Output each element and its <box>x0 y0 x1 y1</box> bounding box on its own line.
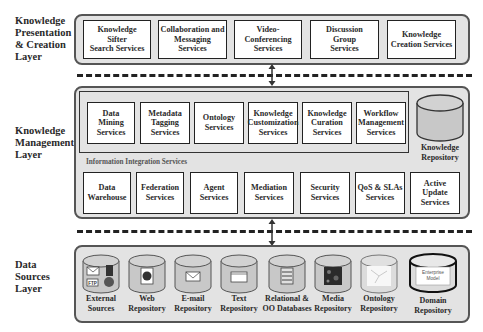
line: Group <box>326 35 363 45</box>
knowledge-sifter-search-services[interactable]: KnowledgeSifterSearch Services <box>83 20 151 59</box>
mediation-services[interactable]: MediationServices <box>244 172 294 214</box>
line: Security <box>310 183 339 193</box>
line: Repository <box>214 304 264 314</box>
agent-services[interactable]: AgentServices <box>190 172 238 214</box>
line: E-mail <box>168 294 218 304</box>
line: Web <box>122 294 172 304</box>
line: Mining <box>97 118 126 128</box>
qos-slas-services[interactable]: QoS & SLAsServices <box>355 172 405 214</box>
line: Metadata <box>148 109 182 119</box>
knowledge-curation-services[interactable]: KnowledgeCurationServices <box>302 102 352 144</box>
repo-label: External Sources <box>76 294 126 313</box>
repo-label: E-mail Repository <box>168 294 218 313</box>
federation-services[interactable]: FederationServices <box>136 172 184 214</box>
web-page-icon <box>128 254 166 294</box>
domain-repository[interactable]: Enterprise Model Domain Repository <box>408 253 458 321</box>
relational-oo-databases[interactable]: Relational & OO Databases <box>268 254 306 318</box>
text-document-icon <box>220 254 258 294</box>
line: Repository <box>402 306 464 316</box>
video-conferencing-services[interactable]: Video-ConferencingServices <box>234 20 302 59</box>
line: Workflow <box>358 109 404 119</box>
line: Knowledge <box>307 109 346 119</box>
line: Mediation <box>251 183 287 193</box>
enterprise-model-icon: Enterprise Model <box>408 253 458 293</box>
information-integration-services-label: Information Integration Services <box>86 158 187 166</box>
line: Messaging <box>161 35 225 45</box>
line: Services <box>203 123 235 133</box>
knowledge-repository-label: Knowledge Repository <box>409 143 471 162</box>
data-warehouse[interactable]: DataWarehouse <box>83 172 131 214</box>
line: Agent <box>200 183 229 193</box>
label-line: & Creation <box>15 39 71 51</box>
line: Federation <box>141 183 179 193</box>
svg-text:Model: Model <box>426 276 439 281</box>
knowledge-customization-services[interactable]: KnowledgeCustomizationServices <box>248 102 298 144</box>
line: Services <box>244 44 291 54</box>
ontology-repository[interactable]: Ontology Repository <box>360 254 398 318</box>
media-repository[interactable]: Media Repository <box>314 254 352 318</box>
line: Discussion <box>326 25 363 35</box>
label-line: Sources <box>15 271 50 283</box>
line: Services <box>148 128 182 138</box>
email-repository[interactable]: E-mail Repository <box>174 254 212 318</box>
line: Services <box>97 128 126 138</box>
workflow-management-services[interactable]: WorkflowManagementServices <box>356 102 406 144</box>
line: External <box>76 294 126 304</box>
line: Tagging <box>148 118 182 128</box>
line: Services <box>161 44 225 54</box>
line: Sifter <box>90 35 145 45</box>
active-update-services[interactable]: ActiveUpdateServices <box>410 172 460 214</box>
line: Knowledge <box>248 109 299 119</box>
svg-text:FTP: FTP <box>88 281 97 286</box>
label-line: Layer <box>15 283 50 295</box>
line: Conferencing <box>244 35 291 45</box>
line: Repository <box>168 304 218 314</box>
line: Media <box>308 294 358 304</box>
metadata-tagging-services[interactable]: MetadataTaggingServices <box>140 102 190 144</box>
repo-label: Media Repository <box>308 294 358 313</box>
repo-label: Domain Repository <box>402 296 464 315</box>
line: Active <box>421 179 450 189</box>
label-line: Data <box>15 259 50 271</box>
line: Knowledge <box>391 30 452 40</box>
line: Repository <box>122 304 172 314</box>
ontology-graph-icon <box>360 254 398 294</box>
database-table-icon <box>268 254 306 294</box>
label-line: Presentation <box>15 27 71 39</box>
line: Management <box>358 118 404 128</box>
line: Services <box>251 193 287 203</box>
line: Customization <box>248 118 299 128</box>
line: Creation Services <box>391 40 452 50</box>
knowledge-creation-services[interactable]: KnowledgeCreation Services <box>387 20 456 59</box>
line: Knowledge <box>409 143 471 153</box>
collaboration-messaging-services[interactable]: Collaboration andMessagingServices <box>158 20 227 59</box>
svg-text:Enterprise: Enterprise <box>422 270 444 275</box>
line: Data <box>88 183 127 193</box>
repo-label: Ontology Repository <box>354 294 404 313</box>
label-line: Layer <box>15 149 74 161</box>
line: Services <box>357 193 402 203</box>
bidirectional-arrow-icon <box>267 219 277 246</box>
line: Repository <box>354 304 404 314</box>
line: Text <box>214 294 264 304</box>
bidirectional-arrow-icon <box>267 64 277 86</box>
line: Update <box>421 188 450 198</box>
knowledge-repository-cylinder-icon[interactable] <box>415 94 465 142</box>
line: Ontology <box>354 294 404 304</box>
line: Services <box>358 128 404 138</box>
label-line: Layer <box>15 51 71 63</box>
text-repository[interactable]: Text Repository <box>220 254 258 318</box>
web-repository[interactable]: Web Repository <box>128 254 166 318</box>
line: Data <box>97 109 126 119</box>
data-mining-services[interactable]: DataMiningServices <box>87 102 135 144</box>
ontology-services[interactable]: OntologyServices <box>194 102 244 144</box>
discussion-group-services[interactable]: DiscussionGroupServices <box>310 20 379 59</box>
line: Services <box>326 44 363 54</box>
security-services[interactable]: SecurityServices <box>300 172 350 214</box>
line: Services <box>310 193 339 203</box>
line: Repository <box>308 304 358 314</box>
presentation-layer: KnowledgeSifterSearch Services Collabora… <box>74 14 470 65</box>
line: Repository <box>409 153 471 163</box>
line: Services <box>141 193 179 203</box>
external-sources-repository[interactable]: FTP External Sources <box>82 254 120 318</box>
